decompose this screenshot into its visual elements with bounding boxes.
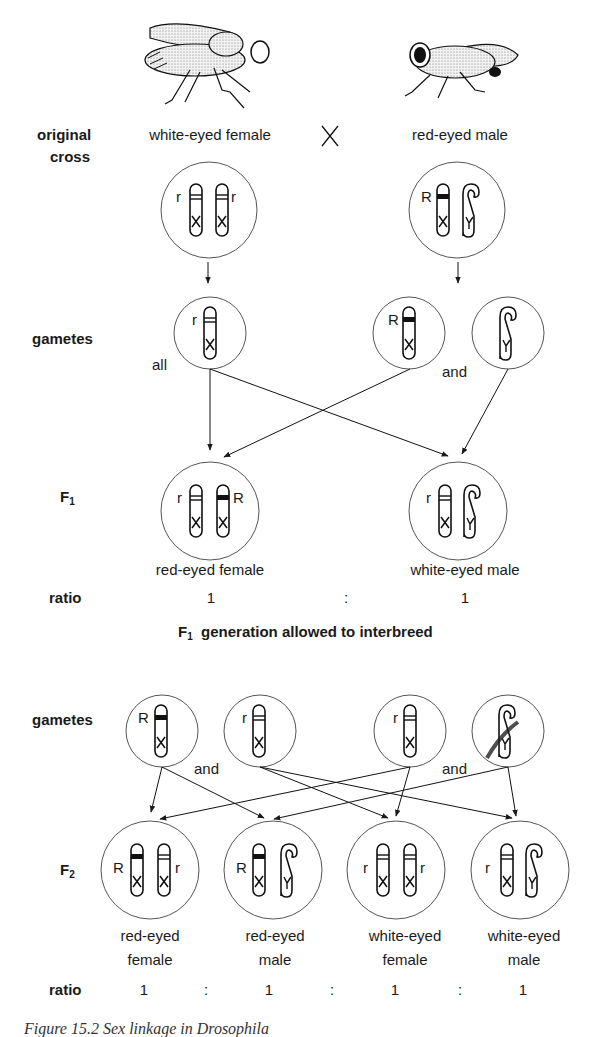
f1-gamete-xR (126, 695, 198, 767)
f2-ratio-value: 1 (265, 981, 273, 998)
gamete-male-y (472, 297, 544, 369)
f2-ratio-separator: : (204, 981, 208, 998)
f1-red-eyed-female-cell (161, 462, 259, 560)
parent-female-label: white-eyed female (149, 126, 271, 143)
f2-offspring-label: white-eyed (369, 927, 442, 944)
f1-gamete-y (472, 695, 544, 767)
allele-label: r (242, 709, 247, 726)
row-label-ratio: ratio (49, 981, 82, 998)
figure-caption: Figure 15.2 Sex linkage in Drosophila (24, 1020, 269, 1037)
f2-white-eyed-female-cell (347, 821, 445, 919)
f2-offspring-label: white-eyed (488, 927, 561, 944)
connector-and: and (442, 760, 467, 777)
allele-label: r (231, 188, 236, 205)
f1-ratio-value: 1 (207, 589, 215, 606)
f1-white-eyed-male-cell (409, 462, 507, 560)
parent-male-label: red-eyed male (412, 126, 508, 143)
f2-ratio-value: 1 (140, 981, 148, 998)
row-label-f2: F2 (60, 861, 75, 883)
allele-label: R (138, 709, 149, 726)
allele-label: r (177, 489, 182, 506)
f2-ratio-value: 1 (519, 981, 527, 998)
row-label-cross: cross (50, 148, 90, 165)
f2-ratio-separator: : (330, 981, 334, 998)
row-label-ratio: ratio (49, 589, 82, 606)
f1-offspring-label: red-eyed female (156, 561, 264, 578)
allele-label: r (393, 709, 398, 726)
f2-offspring-label: red-eyed (245, 927, 304, 944)
f2-ratio-value: 1 (391, 981, 399, 998)
connector-all: all (152, 356, 167, 373)
f2-offspring-label: red-eyed (120, 927, 179, 944)
allele-label: R (388, 311, 399, 328)
parent-male-cell (409, 162, 505, 258)
allele-label: r (485, 859, 490, 876)
allele-label: r (420, 859, 425, 876)
connector-and: and (194, 760, 219, 777)
f2-offspring-label: female (382, 951, 427, 968)
allele-label: R (421, 188, 432, 205)
allele-label: r (192, 311, 197, 328)
red-eyed-male-fly-illustration (405, 43, 518, 98)
parent-female-cell (161, 162, 257, 258)
allele-label: r (363, 859, 368, 876)
connector-and: and (442, 363, 467, 380)
interbreed-heading: F1 generation allowed to interbreed (178, 623, 433, 645)
f2-offspring-label: male (259, 951, 292, 968)
f1-offspring-label: white-eyed male (410, 561, 519, 578)
row-label-gametes: gametes (32, 330, 93, 347)
f1-gamete-xr-female (224, 695, 296, 767)
f1-ratio-separator: : (344, 589, 348, 606)
f2-offspring-label: female (127, 951, 172, 968)
allele-label: R (113, 859, 124, 876)
f2-ratio-separator: : (458, 981, 462, 998)
allele-label: r (176, 188, 181, 205)
cross-symbol-icon (322, 126, 338, 146)
f1-gamete-xr-male (374, 695, 446, 767)
row-label-f1: F1 (60, 488, 75, 510)
white-eyed-female-fly-illustration (145, 24, 269, 108)
gamete-female-xr (174, 297, 246, 369)
allele-label: R (233, 489, 244, 506)
allele-label: r (426, 489, 431, 506)
f2-offspring-label: male (508, 951, 541, 968)
allele-label: R (236, 859, 247, 876)
allele-label: r (175, 859, 180, 876)
gamete-male-xR (373, 297, 445, 369)
row-label-gametes: gametes (32, 711, 93, 728)
row-label-original: original (37, 126, 91, 143)
f1-ratio-value: 1 (461, 589, 469, 606)
